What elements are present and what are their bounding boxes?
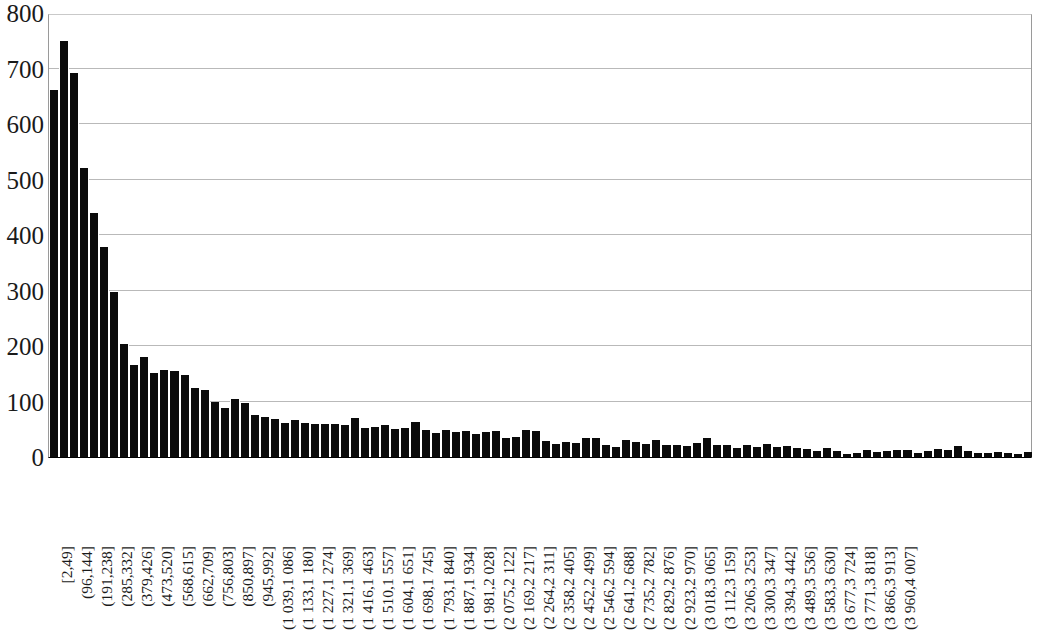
x-axis-tick-label-text: (2 735,2 782] (641, 546, 657, 630)
bar (661, 445, 671, 457)
x-axis-tick-label: (1 510,1 557] (380, 546, 396, 630)
bar (240, 403, 250, 457)
y-axis: 0100200300400500600700800 (0, 0, 44, 470)
x-axis-tick-label: (285,332] (119, 546, 135, 607)
bar (280, 423, 290, 457)
x-axis-tick-label-text: (1 039,1 086] (280, 546, 296, 630)
bar (119, 344, 129, 457)
bar (350, 418, 360, 457)
bar (601, 445, 611, 457)
bar (762, 444, 772, 457)
x-axis-tick-label-text: (756,803] (220, 546, 236, 607)
bar (451, 432, 461, 457)
x-axis-tick-label: (1 793,1 840] (441, 546, 457, 630)
x-axis-tick-label-text: (1 698,1 745] (420, 546, 436, 630)
bar (551, 444, 561, 457)
x-axis-tick-label: (96,144] (79, 546, 95, 599)
x-axis-tick-label-text: (2 169,2 217] (521, 546, 537, 630)
bar (983, 453, 993, 457)
bar (892, 450, 902, 457)
bar (872, 452, 882, 457)
x-axis-tick-label-text: (3 677,3 724] (842, 546, 858, 630)
x-axis-tick-label: (3 771,3 818] (862, 546, 878, 630)
bar (722, 445, 732, 457)
x-axis-tick-label-text: (1 227,1 274] (320, 546, 336, 630)
x-axis-tick-label-text: (3 771,3 818] (862, 546, 878, 630)
y-axis-tick-label: 100 (7, 390, 45, 415)
bar (69, 73, 79, 457)
bar (501, 438, 511, 457)
bar (89, 213, 99, 457)
bar (59, 41, 69, 457)
bar (862, 450, 872, 457)
bar (491, 431, 501, 457)
bar (651, 440, 661, 457)
bar (923, 451, 933, 457)
x-axis-tick-label: (945,992] (260, 546, 276, 607)
bar (621, 440, 631, 457)
bar (79, 168, 89, 457)
x-axis-tick-label-text: (2 923,2 970] (682, 546, 698, 630)
bar (310, 424, 320, 457)
x-axis-tick-label-text: (379,426] (139, 546, 155, 607)
x-axis-tick-label: (1 227,1 274] (320, 546, 336, 630)
bar (210, 402, 220, 458)
bar (902, 450, 912, 457)
bar (330, 424, 340, 457)
x-axis-tick-label: (662,709] (200, 546, 216, 607)
x-axis-tick-label: (1 981,2 028] (481, 546, 497, 630)
bar (571, 443, 581, 457)
bar (421, 430, 431, 457)
x-axis-tick-label: (3 206,3 253] (742, 546, 758, 630)
bar (842, 454, 852, 457)
bar (521, 430, 531, 457)
x-axis-tick-label: (1 604,1 651] (400, 546, 416, 630)
bar (913, 453, 923, 457)
bar (832, 451, 842, 457)
x-axis-tick-label: (2 452,2 499] (581, 546, 597, 630)
bar (340, 425, 350, 457)
bar (320, 424, 330, 457)
bar (169, 371, 179, 457)
bar (933, 449, 943, 457)
x-axis: [2,49](96,144](191,238](285,332](379,426… (48, 460, 1032, 549)
bar (591, 438, 601, 457)
x-axis-tick-label-text: (568,615] (180, 546, 196, 607)
x-axis-tick-label: (2 641,2 688] (621, 546, 637, 630)
x-axis-tick-label-text: (473,520] (159, 546, 175, 607)
x-axis-tick-label-text: (3 300,3 347] (762, 546, 778, 630)
bar (49, 90, 59, 457)
x-axis-tick-label: (850,897] (240, 546, 256, 607)
x-axis-tick-label-text: (1 133,1 180] (300, 546, 316, 630)
x-axis-tick-label-text: (1 981,2 028] (481, 546, 497, 630)
bar (139, 357, 149, 457)
x-axis-tick-label: (1 321,1 369] (340, 546, 356, 630)
x-axis-tick-label-text: (3 866,3 913] (882, 546, 898, 630)
bar (270, 419, 280, 457)
bar (481, 432, 491, 457)
x-axis-tick-label: (2 169,2 217] (521, 546, 537, 630)
x-axis-tick-label-text: (945,992] (260, 546, 276, 607)
x-axis-tick-label: (1 887,1 934] (461, 546, 477, 630)
x-axis-tick-label: (3 018,3 065] (702, 546, 718, 630)
x-axis-tick-label: (1 416,1 463] (360, 546, 376, 630)
x-axis-tick-label-text: (1 416,1 463] (360, 546, 376, 630)
x-axis-tick-label-text: (850,897] (240, 546, 256, 607)
x-axis-tick-label: (3 583,3 630] (822, 546, 838, 630)
bar (461, 431, 471, 457)
x-axis-tick-label-text: (3 583,3 630] (822, 546, 838, 630)
bar (822, 448, 832, 457)
x-axis-tick-label-text: [2,49] (59, 546, 75, 583)
bar (400, 428, 410, 457)
bar (973, 453, 983, 457)
x-axis-tick-label: [2,49] (59, 546, 75, 583)
bar (561, 442, 571, 457)
bar (220, 408, 230, 457)
x-axis-tick-label-text: (3 394,3 442] (782, 546, 798, 630)
bar (742, 445, 752, 457)
x-axis-tick-label-text: (3 206,3 253] (742, 546, 758, 630)
bar (752, 447, 762, 457)
bar (300, 423, 310, 457)
bar (431, 433, 441, 457)
